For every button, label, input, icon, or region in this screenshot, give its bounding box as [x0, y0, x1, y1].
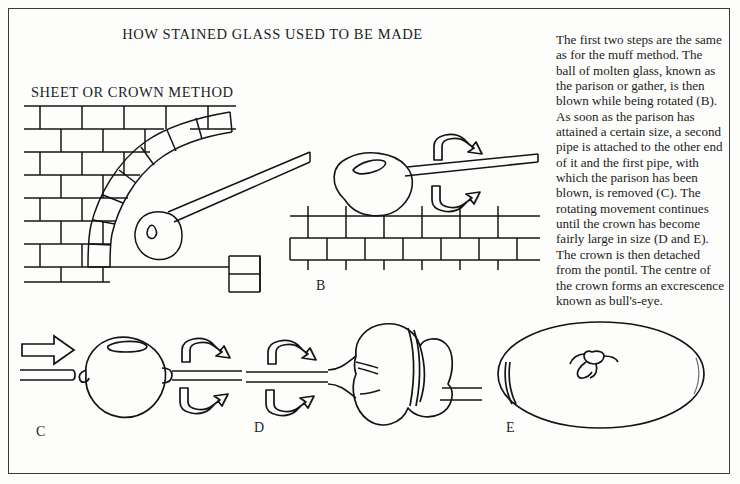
- panel-d-crown-growing: [244, 322, 484, 442]
- explanatory-text: The first two steps are the same as for …: [556, 32, 724, 308]
- panel-a-furnace: [24, 104, 314, 284]
- illustration-page: HOW STAINED GLASS USED TO BE MADE SHEET …: [0, 0, 740, 484]
- panel-c-pipe-removed: [14, 326, 244, 436]
- panel-label-d: D: [254, 420, 264, 436]
- panel-b-blowing: [290, 140, 540, 280]
- panel-label-b: B: [316, 278, 325, 294]
- panel-e-finished-crown: [492, 318, 712, 438]
- section-heading: SHEET OR CROWN METHOD: [31, 84, 233, 101]
- page-title: HOW STAINED GLASS USED TO BE MADE: [0, 26, 545, 43]
- panel-label-e: E: [506, 420, 515, 436]
- panel-label-c: C: [36, 424, 45, 440]
